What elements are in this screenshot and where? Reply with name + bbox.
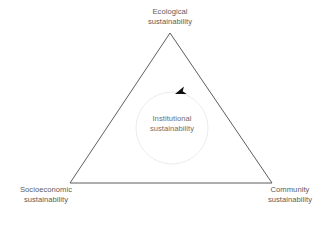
label-community-line2: sustainability [258,195,322,205]
label-socioeconomic-line2: sustainability [6,195,86,205]
label-ecological-line2: sustainability [112,17,228,27]
label-community-sustainability: Community sustainability [258,185,322,205]
label-ecological-line1: Ecological [112,7,228,17]
sustainability-triangle-diagram: Ecological sustainability Socioeconomic … [0,0,324,226]
label-institutional-sustainability: Institutional sustainability [132,114,212,134]
label-community-line1: Community [258,185,322,195]
label-institutional-line1: Institutional [132,114,212,124]
label-socioeconomic-line1: Socioeconomic [6,185,86,195]
label-socioeconomic-sustainability: Socioeconomic sustainability [6,185,86,205]
triangle-outline [70,33,272,183]
label-institutional-line2: sustainability [132,124,212,134]
label-ecological-sustainability: Ecological sustainability [112,7,228,27]
